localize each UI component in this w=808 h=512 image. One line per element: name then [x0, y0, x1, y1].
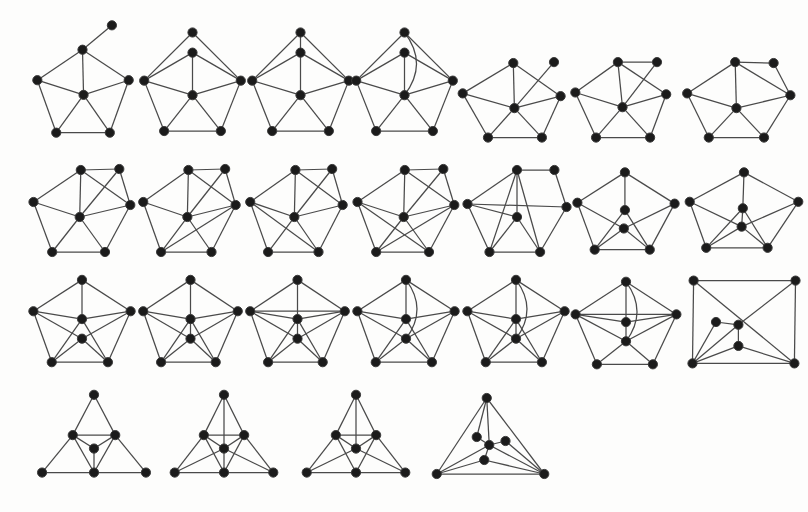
edge-line: [687, 93, 736, 108]
edge-line: [357, 280, 406, 311]
edge-line: [250, 170, 295, 202]
graph-r2c1: [28, 162, 138, 262]
edge-line: [250, 311, 268, 362]
vertex-dot: [37, 468, 46, 477]
edge-line: [80, 205, 131, 217]
vertex-dot: [432, 469, 441, 478]
edge-line: [94, 435, 115, 472]
vertex-dot: [704, 133, 713, 142]
edge-line: [467, 311, 485, 362]
vertex-dot: [219, 390, 228, 399]
graph-r4c2: [168, 390, 280, 486]
vertex-dot: [48, 247, 57, 256]
edge-line: [554, 170, 566, 207]
edge-line: [356, 81, 404, 96]
edge-line: [443, 169, 454, 205]
edge-line: [624, 204, 675, 229]
vertex-dot: [483, 133, 492, 142]
edge-line: [690, 172, 744, 201]
vertex-dot: [264, 247, 273, 256]
edge-line: [467, 280, 516, 311]
edge-line: [294, 217, 318, 252]
vertex-dot: [481, 358, 490, 367]
vertex-dot: [648, 360, 657, 369]
edge-line: [489, 445, 544, 474]
vertex-dot: [463, 307, 472, 316]
vertex-dot: [510, 104, 519, 113]
vertex-dot: [111, 431, 120, 440]
vertex-dot: [33, 76, 42, 85]
vertex-dot: [170, 468, 179, 477]
vertex-dot: [372, 431, 381, 440]
vertex-dot: [318, 358, 327, 367]
edge-line: [597, 341, 626, 364]
edge-line: [513, 63, 514, 108]
edge-line: [709, 108, 737, 137]
vertex-dot: [400, 48, 409, 57]
vertex-dot: [482, 393, 491, 402]
edge-line: [405, 95, 433, 131]
vertex-dot: [328, 164, 337, 173]
graph-r2c2: [138, 162, 243, 262]
graph-r2c7: [685, 165, 803, 257]
edge-line: [143, 170, 188, 202]
edge-line: [143, 280, 190, 311]
edge-line: [298, 339, 323, 363]
vertex-dot: [184, 165, 193, 174]
edge-line: [577, 203, 594, 250]
edge-line: [468, 170, 518, 204]
edge-line: [84, 80, 129, 95]
vertex-dot: [115, 164, 124, 173]
edge-line: [575, 92, 622, 107]
graph-r3c6: [570, 276, 682, 372]
edge-line: [250, 202, 294, 217]
edge-line: [143, 202, 187, 217]
vertex-dot: [472, 432, 481, 441]
vertex-dot: [79, 90, 88, 99]
vertex-dot: [331, 431, 340, 440]
edge-line: [514, 108, 542, 137]
vertex-dot: [246, 197, 255, 206]
vertex-dot: [571, 310, 580, 319]
edge-line: [224, 449, 273, 473]
vertex-dot: [786, 91, 795, 100]
edge-line: [336, 395, 356, 435]
edge-line: [738, 346, 794, 363]
edge-line: [490, 217, 518, 252]
vertex-dot: [186, 275, 195, 284]
vertex-dot: [126, 307, 135, 316]
vertex-dot: [371, 358, 380, 367]
edge-line: [188, 169, 225, 170]
edge-line: [406, 280, 455, 311]
vertex-dot: [126, 200, 135, 209]
edge-line: [252, 81, 300, 96]
edge-line: [468, 204, 518, 217]
vertex-dot: [618, 103, 627, 112]
edge-line: [34, 170, 81, 202]
vertex-dot: [269, 468, 278, 477]
graph-r1c6: [565, 52, 680, 144]
edge-line: [735, 62, 773, 63]
edge-line: [687, 93, 709, 137]
vertex-dot: [268, 126, 277, 135]
graph-r3c1: [28, 274, 136, 372]
vertex-dot: [248, 76, 257, 85]
vertex-dot: [302, 468, 311, 477]
edge-line: [577, 203, 623, 229]
edge-line: [488, 108, 514, 137]
graph-r1c1: [30, 18, 135, 140]
vertex-dot: [157, 247, 166, 256]
vertex-dot: [211, 358, 220, 367]
graph-r3c2: [138, 274, 243, 372]
vertex-dot: [231, 200, 240, 209]
edge-line: [175, 449, 224, 473]
vertex-dot: [124, 76, 133, 85]
vertex-dot: [399, 212, 408, 221]
edge-line: [83, 50, 129, 81]
edge-line: [517, 170, 540, 252]
vertex-dot: [233, 307, 242, 316]
edge-line: [618, 62, 666, 94]
curved-edge-line: [406, 280, 417, 339]
vertex-dot: [573, 198, 582, 207]
graph-r3c7: [688, 276, 800, 368]
